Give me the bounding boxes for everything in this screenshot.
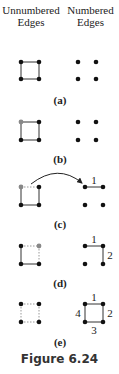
edge-number-c-1: 1 (91, 174, 97, 186)
edge-number-e-1: 1 (91, 291, 97, 303)
move-arrow-c (31, 173, 82, 184)
panel-a: (a) (19, 60, 99, 107)
highlighted-node-b (19, 120, 24, 125)
panel-label-b: (b) (53, 153, 67, 166)
edge-number-e-3: 3 (91, 324, 97, 336)
panel-label-e: (e) (54, 336, 67, 349)
panel-label-a: (a) (54, 94, 67, 107)
edge-number-e-4: 4 (75, 307, 81, 319)
panel-d: 1 2 (d) (19, 233, 113, 290)
highlighted-node-c (19, 185, 24, 190)
nodes-a (19, 60, 99, 82)
panel-c: 1 (c) (19, 173, 106, 231)
unnumbered-square-a (21, 62, 39, 79)
panel-label-d: (d) (53, 277, 67, 290)
edge-number-d-1: 1 (91, 233, 97, 245)
edge-number-d-2: 2 (107, 249, 113, 261)
figure-diagram: (a) (b) 1 (c) (0, 0, 119, 374)
unnumbered-square-b (21, 122, 39, 140)
edge-number-e-2: 2 (107, 307, 113, 319)
panel-e: 1 2 3 4 (e) (19, 291, 113, 349)
panel-b: (b) (19, 120, 99, 166)
highlighted-node-d (37, 244, 42, 249)
figure-caption: Figure 6.24 (0, 352, 119, 366)
panel-label-c: (c) (54, 218, 67, 231)
